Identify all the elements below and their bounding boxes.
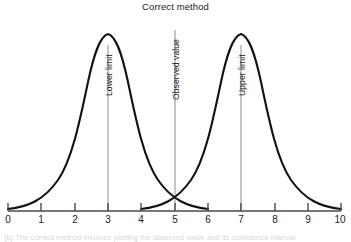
x-tick-label-10: 10 xyxy=(331,215,349,225)
x-tick-label-6: 6 xyxy=(199,215,217,225)
x-tick-label-2: 2 xyxy=(66,215,84,225)
annotation-label-upper-limit: Upper limit xyxy=(238,54,247,96)
x-tick-label-8: 8 xyxy=(266,215,284,225)
x-tick-label-7: 7 xyxy=(232,215,250,225)
figure-caption: (b) The correct method involves plotting… xyxy=(4,233,348,242)
x-tick-label-5: 5 xyxy=(166,215,184,225)
x-tick-label-1: 1 xyxy=(32,215,50,225)
x-tick-label-3: 3 xyxy=(99,215,117,225)
annotation-label-lower-limit: Lower limit xyxy=(105,54,114,96)
annotation-label-observed-value: Observed value xyxy=(172,39,181,100)
x-tick-label-0: 0 xyxy=(0,215,17,225)
x-tick-label-4: 4 xyxy=(132,215,150,225)
x-tick-label-9: 9 xyxy=(299,215,317,225)
